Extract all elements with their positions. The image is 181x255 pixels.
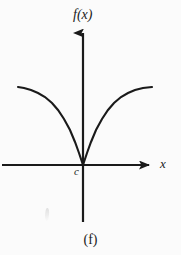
x-axis-label: x	[160, 157, 166, 170]
figure-caption: (f)	[0, 232, 181, 248]
curve-right-branch	[83, 87, 152, 165]
y-axis-label: f(x)	[73, 8, 92, 22]
graph-plot	[0, 0, 181, 255]
cusp-point-label: c	[74, 166, 79, 177]
curve-left-branch	[18, 87, 83, 165]
figure-container: f(x) x c (f)	[0, 0, 181, 255]
